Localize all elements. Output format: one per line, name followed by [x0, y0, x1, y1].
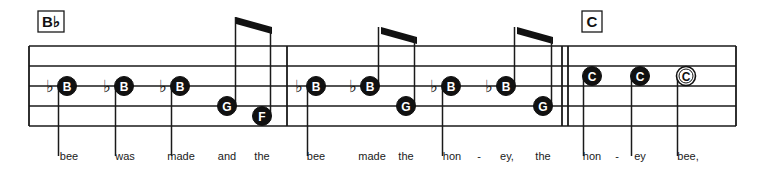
eighth-beam	[517, 27, 553, 44]
note-letter: B	[366, 80, 375, 94]
eighth-beam	[381, 27, 417, 44]
chord-label: B♭	[42, 13, 60, 30]
note-g: G	[534, 37, 553, 116]
lyric-syllable: hon	[583, 150, 601, 162]
lyric-syllable: -	[615, 150, 619, 162]
lyric-syllable: hon	[443, 150, 461, 162]
chord-symbol: C	[582, 11, 602, 32]
note-b: ♭B	[103, 76, 134, 156]
flat-accidental-icon: ♭	[159, 76, 167, 96]
note-g: G	[397, 37, 416, 116]
note-letter: B	[312, 80, 321, 94]
note-b: ♭B	[295, 76, 326, 156]
lyric-syllable: the	[535, 150, 550, 162]
note-b: ♭B	[349, 27, 380, 96]
chord-symbol: B♭	[38, 11, 64, 32]
lyric-syllable: was	[114, 150, 135, 162]
flat-accidental-icon: ♭	[349, 76, 357, 96]
lyric-syllable: made	[167, 150, 195, 162]
note-b: ♭B	[430, 76, 461, 156]
note-letter: F	[258, 110, 265, 124]
flat-accidental-icon: ♭	[485, 76, 493, 96]
note-b: ♭B	[159, 76, 190, 156]
lyric-syllable: ey	[634, 150, 646, 162]
lyric-syllable: ey,	[500, 150, 514, 162]
note-letter: G	[538, 100, 547, 114]
note-c: C	[631, 67, 650, 157]
note-letter: B	[502, 80, 511, 94]
flat-accidental-icon: ♭	[295, 76, 303, 96]
note-letter: C	[682, 70, 691, 84]
eighth-beam	[236, 17, 272, 34]
note-letter: B	[176, 80, 185, 94]
lyric-syllable: the	[254, 150, 269, 162]
lead-sheet-score: B♭C♭B♭B♭BGF♭B♭BG♭B♭BGCCCbeewasmadeandthe…	[0, 0, 762, 175]
note-b: ♭B	[485, 27, 516, 96]
lyric-syllable: and	[218, 150, 236, 162]
flat-accidental-icon: ♭	[103, 76, 111, 96]
note-b: ♭B	[46, 76, 77, 156]
note-letter: C	[636, 70, 645, 84]
staff	[29, 46, 736, 126]
note-letter: B	[63, 80, 72, 94]
note-letter: G	[222, 100, 231, 114]
lyric-syllable: the	[398, 150, 413, 162]
flat-accidental-icon: ♭	[430, 76, 438, 96]
lyric-syllable: -	[477, 150, 481, 162]
note-c: C	[677, 67, 696, 157]
lyric-syllable: bee,	[677, 150, 698, 162]
chord-label: C	[587, 13, 598, 30]
note-letter: G	[401, 100, 410, 114]
lyric-syllable: bee	[60, 150, 78, 162]
note-letter: C	[588, 70, 597, 84]
lyric-syllable: made	[358, 150, 386, 162]
note-letter: B	[447, 80, 456, 94]
note-f: F	[253, 27, 272, 126]
flat-accidental-icon: ♭	[46, 76, 54, 96]
note-letter: B	[120, 80, 129, 94]
lyric-syllable: bee	[307, 150, 325, 162]
note-c: C	[583, 67, 602, 157]
